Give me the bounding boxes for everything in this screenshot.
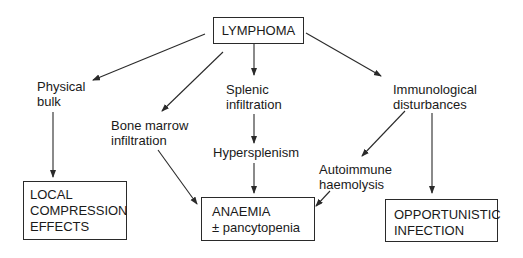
- splenic-line-2: infiltration: [226, 97, 282, 112]
- opportunistic-line-1: OPPORTUNISTIC: [394, 207, 497, 223]
- autoimmune-line-1: Autoimmune: [319, 162, 392, 177]
- splenic-line-1: Splenic: [226, 82, 282, 97]
- physical-bulk-node: Physical bulk: [37, 79, 85, 109]
- opportunistic-line-2: INFECTION: [394, 223, 497, 239]
- local-compression-box: LOCAL COMPRESSION EFFECTS: [23, 181, 127, 240]
- splenic-infiltration-node: Splenic infiltration: [226, 82, 282, 112]
- lymphoma-complications-diagram: LYMPHOMA Physical bulk Bone marrow infil…: [0, 0, 523, 258]
- lymphoma-box: LYMPHOMA: [213, 17, 304, 44]
- anaemia-line-2: ± pancytopenia: [212, 220, 314, 236]
- arrow-bone-marrow-to-anaemia: [158, 150, 197, 204]
- anaemia-box: ANAEMIA ± pancytopenia: [201, 197, 315, 241]
- arrow-lymphoma-to-physical-bulk: [93, 34, 205, 80]
- local-compression-line-1: LOCAL: [30, 187, 126, 203]
- hypersplenism-line-1: Hypersplenism: [213, 145, 299, 160]
- local-compression-line-3: EFFECTS: [30, 219, 126, 235]
- arrow-immunological-to-autoimmune: [362, 111, 405, 156]
- autoimmune-haemolysis-node: Autoimmune haemolysis: [319, 162, 392, 192]
- immunological-line-2: disturbances: [393, 97, 477, 112]
- anaemia-line-1: ANAEMIA: [212, 204, 314, 220]
- opportunistic-infection-box: OPPORTUNISTIC INFECTION: [385, 199, 498, 242]
- local-compression-line-2: COMPRESSION: [30, 203, 126, 219]
- immunological-disturbances-node: Immunological disturbances: [393, 82, 477, 112]
- arrow-autoimmune-to-anaemia: [316, 191, 330, 206]
- bone-marrow-line-1: Bone marrow: [111, 118, 188, 133]
- lymphoma-label: LYMPHOMA: [222, 23, 295, 38]
- physical-bulk-line-2: bulk: [37, 94, 85, 109]
- bone-marrow-line-2: infiltration: [111, 133, 188, 148]
- arrow-lymphoma-to-bone-marrow: [162, 52, 223, 111]
- arrow-lymphoma-to-immunological: [306, 33, 381, 76]
- hypersplenism-node: Hypersplenism: [213, 145, 299, 160]
- physical-bulk-line-1: Physical: [37, 79, 85, 94]
- bone-marrow-node: Bone marrow infiltration: [111, 118, 188, 148]
- immunological-line-1: Immunological: [393, 82, 477, 97]
- autoimmune-line-2: haemolysis: [319, 177, 392, 192]
